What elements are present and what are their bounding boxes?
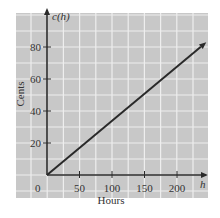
- y-axis-title: Cents: [14, 81, 26, 106]
- y-tick-label: 80: [30, 41, 42, 53]
- x-tick-label: 50: [74, 182, 86, 194]
- y-axis-variable: c(h): [52, 10, 70, 23]
- chart: 5010015020020406080 0 h c(h) Hours Cents: [0, 0, 220, 218]
- x-tick-label: 200: [169, 182, 186, 194]
- y-tick-label: 60: [30, 73, 42, 85]
- y-axis-arrow-icon: [44, 8, 50, 15]
- x-axis-title: Hours: [98, 194, 125, 206]
- y-tick-label: 20: [30, 137, 42, 149]
- x-tick-label: 100: [104, 182, 121, 194]
- origin-label: 0: [35, 182, 41, 194]
- x-tick-label: 150: [136, 182, 153, 194]
- y-tick-label: 40: [30, 105, 42, 117]
- x-axis-variable: h: [200, 178, 206, 190]
